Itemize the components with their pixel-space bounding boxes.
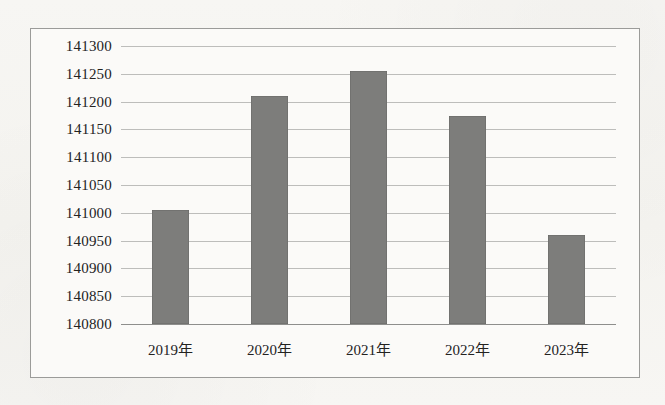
ytick-label: 141050 — [66, 177, 112, 194]
xtick-label-2020: 2020年 — [247, 338, 292, 359]
xtick-label-2023: 2023年 — [544, 338, 589, 359]
ytick-label: 141200 — [66, 93, 112, 110]
ytick-label: 140800 — [66, 316, 112, 333]
ytick-label: 141300 — [66, 38, 112, 55]
bar-2021[interactable] — [350, 71, 388, 324]
plot-area: 141300 141250 141200 141150 141100 14105… — [121, 46, 616, 324]
ytick-label: 141250 — [66, 65, 112, 82]
bar-2023[interactable] — [548, 235, 586, 324]
ytick-label: 141000 — [66, 204, 112, 221]
xtick-label-2022: 2022年 — [445, 338, 490, 359]
gridline-141300: 141300 — [121, 46, 616, 47]
xtick-label-2019: 2019年 — [148, 338, 193, 359]
ytick-label: 141100 — [66, 149, 112, 166]
ytick-label: 140900 — [66, 260, 112, 277]
ytick-label: 140850 — [66, 288, 112, 305]
bar-2019[interactable] — [152, 210, 190, 324]
ytick-label: 140950 — [66, 232, 112, 249]
chart-frame: 141300 141250 141200 141150 141100 14105… — [30, 28, 640, 378]
axis-baseline: 140800 — [121, 324, 616, 325]
xtick-label-2021: 2021年 — [346, 338, 391, 359]
ytick-label: 141150 — [66, 121, 112, 138]
bar-2020[interactable] — [251, 96, 289, 324]
bar-2022[interactable] — [449, 116, 487, 325]
